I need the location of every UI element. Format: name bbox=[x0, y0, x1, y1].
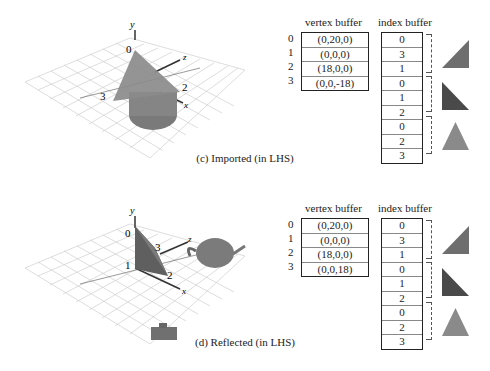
svg-text:z: z bbox=[182, 52, 187, 62]
triangle-3-icon bbox=[442, 122, 469, 150]
panel-reflected: y z x 0 1 2 3 vertex buffer index buffer… bbox=[0, 186, 490, 371]
svg-text:2: 2 bbox=[167, 269, 173, 281]
vertex-index: 1 bbox=[288, 232, 298, 244]
caption-imported: (c) Imported (in LHS) bbox=[0, 152, 490, 164]
vertex-cell: (0,0,-18) bbox=[302, 77, 368, 91]
scene-reflected-teapot: y z x 0 1 2 3 bbox=[20, 196, 250, 346]
vertex-cell: (0,0,0) bbox=[302, 48, 368, 63]
caption-reflected: (d) Reflected (in LHS) bbox=[0, 336, 490, 348]
svg-text:0: 0 bbox=[125, 227, 131, 239]
svg-text:x: x bbox=[181, 286, 186, 296]
vertex-buffer-table: (0,20,0) (0,0,0) (18,0,0) (0,0,-18) bbox=[301, 32, 369, 91]
triangle-group-bracket bbox=[426, 262, 432, 298]
index-cell: 1 bbox=[382, 277, 422, 292]
triangle-2-icon bbox=[442, 82, 469, 110]
vertex-index: 3 bbox=[288, 74, 298, 86]
index-cell: 0 bbox=[382, 306, 422, 321]
svg-text:0: 0 bbox=[126, 43, 132, 55]
panel-imported: y z x 0 2 3 vertex buffer index buffer 0… bbox=[0, 0, 490, 185]
index-buffer-table: 0 3 1 0 1 2 0 2 3 bbox=[381, 218, 423, 350]
svg-text:x: x bbox=[183, 100, 188, 110]
index-buffer-title: index buffer bbox=[378, 16, 432, 28]
vertex-index: 0 bbox=[288, 218, 298, 230]
index-cell: 2 bbox=[382, 106, 422, 121]
vertex-index: 2 bbox=[288, 60, 298, 72]
vertex-cell: (0,0,18) bbox=[302, 263, 368, 277]
triangle-group-bracket bbox=[426, 76, 432, 112]
index-cell: 0 bbox=[382, 77, 422, 92]
triangle-group-bracket bbox=[426, 34, 432, 73]
vertex-index: 1 bbox=[288, 46, 298, 58]
svg-text:2: 2 bbox=[182, 81, 188, 93]
index-cell: 2 bbox=[382, 135, 422, 150]
vertex-cell: (18,0,0) bbox=[302, 248, 368, 263]
vertex-index: 2 bbox=[288, 246, 298, 258]
vertex-cell: (0,0,0) bbox=[302, 234, 368, 249]
index-cell: 1 bbox=[382, 62, 422, 77]
index-cell: 3 bbox=[382, 234, 422, 249]
index-cell: 1 bbox=[382, 91, 422, 106]
y-axis-label: y bbox=[129, 19, 135, 30]
triangle-1-icon bbox=[442, 226, 469, 254]
vertex-cell: (0,20,0) bbox=[302, 219, 368, 234]
index-cell: 3 bbox=[382, 48, 422, 63]
svg-text:z: z bbox=[187, 234, 192, 244]
scene-imported-cone: y z x 0 2 3 bbox=[20, 10, 250, 160]
vertex-index: 0 bbox=[288, 32, 298, 44]
vertex-buffer-table: (0,20,0) (0,0,0) (18,0,0) (0,0,18) bbox=[301, 218, 369, 277]
vertex-cell: (18,0,0) bbox=[302, 62, 368, 77]
vertex-buffer-title: vertex buffer bbox=[305, 16, 362, 28]
triangle-group-bracket bbox=[426, 302, 432, 340]
index-cell: 1 bbox=[382, 248, 422, 263]
svg-text:1: 1 bbox=[125, 259, 131, 271]
triangle-2-icon bbox=[442, 268, 469, 296]
index-buffer-table: 0 3 1 0 1 2 0 2 3 bbox=[381, 32, 423, 164]
triangle-group-bracket bbox=[426, 116, 432, 154]
index-cell: 2 bbox=[382, 321, 422, 336]
index-cell: 2 bbox=[382, 292, 422, 307]
index-cell: 0 bbox=[382, 33, 422, 48]
vertex-cell: (0,20,0) bbox=[302, 33, 368, 48]
svg-text:3: 3 bbox=[155, 241, 161, 253]
triangle-group-bracket bbox=[426, 220, 432, 259]
triangle-3-icon bbox=[442, 308, 469, 336]
svg-text:y: y bbox=[129, 205, 135, 216]
index-buffer-title: index buffer bbox=[378, 202, 432, 214]
index-cell: 0 bbox=[382, 120, 422, 135]
vertex-index: 3 bbox=[288, 260, 298, 272]
index-cell: 0 bbox=[382, 219, 422, 234]
svg-text:3: 3 bbox=[100, 90, 106, 102]
index-cell: 0 bbox=[382, 263, 422, 278]
vertex-buffer-title: vertex buffer bbox=[305, 202, 362, 214]
triangle-1-icon bbox=[442, 40, 469, 68]
